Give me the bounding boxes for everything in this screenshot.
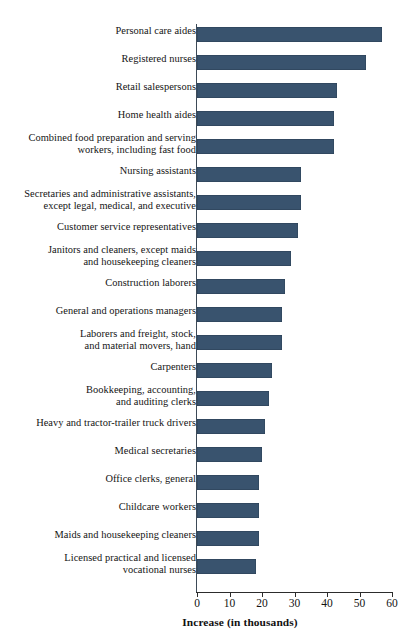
category-label: General and operations managers bbox=[10, 305, 196, 317]
bar-row: Nursing assistants bbox=[0, 161, 418, 189]
category-label: Personal care aides bbox=[10, 25, 196, 37]
category-label: Medical secretaries bbox=[10, 445, 196, 457]
bar bbox=[197, 55, 366, 70]
x-axis-tick-label: 30 bbox=[277, 597, 313, 609]
bar bbox=[197, 363, 272, 378]
category-label: Licensed practical and licensed vocation… bbox=[10, 552, 196, 575]
category-label: Construction laborers bbox=[10, 277, 196, 289]
bar-track bbox=[197, 55, 397, 70]
bar bbox=[197, 195, 301, 210]
x-axis-tick-label: 60 bbox=[374, 597, 410, 609]
x-axis-tick-label: 10 bbox=[212, 597, 248, 609]
bar-track bbox=[197, 391, 397, 406]
category-label: Nursing assistants bbox=[10, 165, 196, 177]
bar bbox=[197, 531, 259, 546]
bar-track bbox=[197, 167, 397, 182]
bar-row: Bookkeeping, accounting, and auditing cl… bbox=[0, 385, 418, 413]
bar bbox=[197, 139, 334, 154]
category-label: Heavy and tractor-trailer truck drivers bbox=[10, 417, 196, 429]
category-label: Childcare workers bbox=[10, 501, 196, 513]
category-label: Bookkeeping, accounting, and auditing cl… bbox=[10, 384, 196, 407]
bar bbox=[197, 335, 282, 350]
plot-area: Personal care aidesRegistered nursesReta… bbox=[0, 12, 418, 580]
bar-row: Construction laborers bbox=[0, 273, 418, 301]
bar-row: General and operations managers bbox=[0, 301, 418, 329]
x-axis-tick-label: 40 bbox=[309, 597, 345, 609]
bar-track bbox=[197, 503, 397, 518]
bar-row: Registered nurses bbox=[0, 49, 418, 77]
bar-row: Heavy and tractor-trailer truck drivers bbox=[0, 413, 418, 441]
category-label: Maids and housekeeping cleaners bbox=[10, 529, 196, 541]
category-label: Laborers and freight, stock, and materia… bbox=[10, 328, 196, 351]
bar bbox=[197, 223, 298, 238]
bar-track bbox=[197, 223, 397, 238]
bar-track bbox=[197, 27, 397, 42]
bar-track bbox=[197, 419, 397, 434]
bar-row: Customer service representatives bbox=[0, 217, 418, 245]
bar-row: Personal care aides bbox=[0, 21, 418, 49]
bar-track bbox=[197, 139, 397, 154]
bar bbox=[197, 111, 334, 126]
category-label: Carpenters bbox=[10, 361, 196, 373]
bar-row: Carpenters bbox=[0, 357, 418, 385]
bar bbox=[197, 279, 285, 294]
bar-track bbox=[197, 83, 397, 98]
bar-track bbox=[197, 279, 397, 294]
bar-track bbox=[197, 335, 397, 350]
category-label: Registered nurses bbox=[10, 53, 196, 65]
bar bbox=[197, 503, 259, 518]
bar-row: Medical secretaries bbox=[0, 441, 418, 469]
bar-row: Janitors and cleaners, except maids and … bbox=[0, 245, 418, 273]
bar bbox=[197, 167, 301, 182]
bar-track bbox=[197, 195, 397, 210]
category-label: Home health aides bbox=[10, 109, 196, 121]
x-axis-tick-label: 50 bbox=[342, 597, 378, 609]
category-label: Secretaries and administrative assistant… bbox=[10, 188, 196, 211]
category-label: Janitors and cleaners, except maids and … bbox=[10, 244, 196, 267]
bar bbox=[197, 419, 265, 434]
bar-row: Office clerks, general bbox=[0, 469, 418, 497]
x-axis-title: Increase (in thousands) bbox=[0, 616, 418, 628]
chart-title bbox=[0, 0, 418, 7]
bar-row: Childcare workers bbox=[0, 497, 418, 525]
bar bbox=[197, 83, 337, 98]
bar-row: Laborers and freight, stock, and materia… bbox=[0, 329, 418, 357]
bar-track bbox=[197, 111, 397, 126]
bar-row: Maids and housekeeping cleaners bbox=[0, 525, 418, 553]
bar bbox=[197, 307, 282, 322]
category-label: Retail salespersons bbox=[10, 81, 196, 93]
x-axis-tick-label: 20 bbox=[244, 597, 280, 609]
bar bbox=[197, 391, 269, 406]
bar-track bbox=[197, 251, 397, 266]
bar-track bbox=[197, 447, 397, 462]
category-label: Office clerks, general bbox=[10, 473, 196, 485]
bar-track bbox=[197, 531, 397, 546]
x-axis-tick-label: 0 bbox=[179, 597, 215, 609]
bar bbox=[197, 475, 259, 490]
bar bbox=[197, 27, 382, 42]
bar bbox=[197, 447, 262, 462]
y-axis-line bbox=[196, 24, 197, 592]
bar-row: Retail salespersons bbox=[0, 77, 418, 105]
bar bbox=[197, 251, 291, 266]
bar-row: Home health aides bbox=[0, 105, 418, 133]
bar-row: Licensed practical and licensed vocation… bbox=[0, 553, 418, 581]
bar-track bbox=[197, 307, 397, 322]
bar-track bbox=[197, 363, 397, 378]
bar-track bbox=[197, 475, 397, 490]
horizontal-bar-chart: Personal care aidesRegistered nursesReta… bbox=[0, 0, 418, 632]
bar-track bbox=[197, 559, 397, 574]
category-label: Combined food preparation and serving wo… bbox=[10, 132, 196, 155]
category-label: Customer service representatives bbox=[10, 221, 196, 233]
bar bbox=[197, 559, 256, 574]
bar-row: Combined food preparation and serving wo… bbox=[0, 133, 418, 161]
bar-row: Secretaries and administrative assistant… bbox=[0, 189, 418, 217]
